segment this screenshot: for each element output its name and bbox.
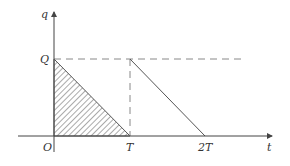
2t-label: 2T bbox=[197, 141, 214, 154]
charge-time-diagram: q Q O T 2T t bbox=[0, 0, 290, 166]
shaded-area bbox=[54, 59, 130, 136]
t-label: T bbox=[126, 141, 135, 154]
q-label: Q bbox=[40, 53, 49, 66]
x-axis-label: t bbox=[267, 141, 272, 154]
origin-label: O bbox=[43, 141, 52, 154]
y-axis-label: q bbox=[41, 8, 48, 21]
discharge-line bbox=[130, 59, 205, 136]
